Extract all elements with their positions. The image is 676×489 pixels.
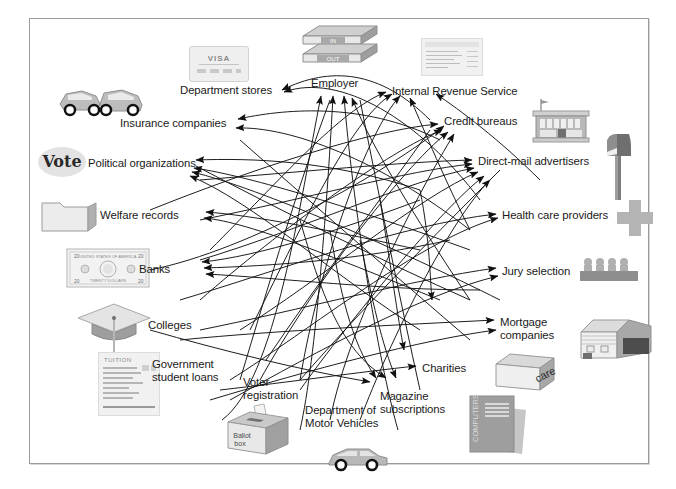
vote-badge-icon: Vote [38, 147, 86, 177]
credit-card-stripe [199, 64, 239, 65]
svg-text:box: box [234, 440, 246, 447]
svg-text:Ballot: Ballot [233, 432, 251, 439]
node-label-charities[interactable]: Charities [422, 362, 466, 375]
svg-text:TWENTY DOLLARS: TWENTY DOLLARS [90, 278, 127, 283]
node-label-political-organizations[interactable]: Political organizations [88, 157, 196, 170]
charity-box-icon: care [492, 350, 558, 396]
node-label-employer[interactable]: Employer [311, 77, 358, 90]
node-label-department-stores[interactable]: Department stores [180, 84, 272, 97]
mailbox-icon [601, 130, 637, 204]
graduation-cap-icon [74, 300, 154, 356]
house-icon [577, 312, 655, 364]
svg-text:20: 20 [74, 253, 80, 259]
svg-text:IN: IN [330, 38, 336, 44]
node-label-jury-selection[interactable]: Jury selection [502, 265, 570, 278]
tax-form-icon [421, 38, 483, 76]
bank-building-icon [529, 97, 595, 147]
diagram-canvas: VISA IN OUT [0, 0, 676, 489]
magazine-icon: COMPUTERS [466, 392, 536, 460]
node-label-mortgage-companies[interactable]: Mortgage companies [500, 316, 554, 341]
node-label-voter-registration[interactable]: Voter registration [243, 376, 298, 401]
node-label-credit-bureaus[interactable]: Credit bureaus [444, 115, 517, 128]
medical-cross-icon [617, 200, 653, 236]
node-label-dmv[interactable]: Department of Motor Vehicles [305, 404, 378, 429]
jury-box-icon [578, 254, 642, 284]
tuition-bill-title: TUITION [104, 357, 132, 363]
svg-text:20: 20 [138, 278, 144, 284]
ballot-box-icon: Ballot box [224, 402, 294, 460]
car-crash-icon [56, 78, 146, 120]
credit-card-number [197, 69, 241, 73]
svg-text:20: 20 [138, 253, 144, 259]
node-label-insurance-companies[interactable]: Insurance companies [120, 117, 226, 130]
svg-text:20: 20 [74, 278, 80, 284]
svg-text:OUT: OUT [327, 56, 340, 62]
credit-card-brand: VISA [190, 54, 248, 63]
svg-text:UNITED STATES OF AMERICA: UNITED STATES OF AMERICA [80, 254, 137, 259]
node-label-government-loans[interactable]: Government student loans [152, 358, 218, 383]
node-label-magazine-subscriptions[interactable]: Magazine subscriptions [380, 390, 445, 415]
dollar-bill-icon: UNITED STATES OF AMERICA 20 20 20 20 TWE… [66, 248, 150, 288]
tuition-bill-icon: TUITION [98, 352, 160, 416]
credit-card-icon: VISA [189, 46, 249, 82]
node-label-internal-revenue[interactable]: Internal Revenue Service [392, 85, 518, 98]
node-label-health-care[interactable]: Health care providers [502, 209, 608, 222]
node-label-direct-mail[interactable]: Direct-mail advertisers [478, 155, 589, 168]
node-label-welfare-records[interactable]: Welfare records [100, 209, 179, 222]
file-folder-icon [38, 195, 100, 237]
svg-text:COMPUTERS: COMPUTERS [471, 394, 480, 442]
node-label-banks[interactable]: Banks [139, 263, 170, 276]
vote-badge-label: Vote [38, 152, 86, 171]
sedan-car-icon [325, 444, 391, 474]
in-out-tray-icon: IN OUT [293, 22, 385, 74]
node-label-colleges[interactable]: Colleges [148, 319, 192, 332]
